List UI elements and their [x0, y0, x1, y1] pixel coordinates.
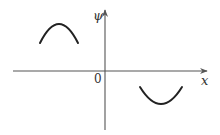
origin-label: 0	[94, 72, 102, 86]
left-arc-curve	[40, 24, 78, 43]
psi-axis-label: ψ	[93, 8, 104, 23]
x-axis-label: x	[201, 73, 209, 88]
right-arc-curve	[140, 87, 182, 104]
wavefunction-diagram: ψ x 0	[0, 0, 220, 135]
